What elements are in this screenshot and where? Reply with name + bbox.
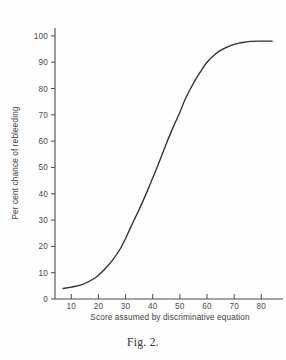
y-tick-label-70: 70	[38, 111, 48, 120]
y-axis-ticks: 0102030405060708090100	[34, 32, 55, 304]
y-tick-label-0: 0	[43, 295, 48, 304]
y-tick-label-30: 30	[38, 216, 48, 225]
y-tick-label-50: 50	[38, 163, 48, 172]
figure-container: 0102030405060708090100 1020304050607080 …	[0, 0, 286, 360]
x-tick-label-70: 70	[229, 302, 239, 311]
y-tick-label-10: 10	[38, 269, 48, 278]
y-tick-label-100: 100	[34, 32, 49, 41]
y-tick-label-20: 20	[38, 242, 48, 251]
rebleeding-probability-chart: 0102030405060708090100 1020304050607080 …	[0, 0, 286, 336]
y-tick-label-90: 90	[38, 58, 48, 67]
y-tick-label-60: 60	[38, 137, 48, 146]
x-tick-label-30: 30	[121, 302, 131, 311]
sigmoid-curve	[63, 41, 272, 288]
x-tick-label-20: 20	[94, 302, 104, 311]
x-tick-label-60: 60	[202, 302, 212, 311]
figure-caption: Fig. 2.	[0, 336, 286, 348]
x-tick-label-50: 50	[175, 302, 185, 311]
y-tick-label-40: 40	[38, 190, 48, 199]
x-tick-label-40: 40	[148, 302, 158, 311]
y-axis-title: Per cent chance of rebleeding	[10, 106, 20, 219]
x-tick-label-80: 80	[257, 302, 267, 311]
x-axis-title: Score assumed by discriminative equation	[90, 312, 250, 322]
y-tick-label-80: 80	[38, 85, 48, 94]
x-tick-label-10: 10	[67, 302, 77, 311]
x-axis-ticks: 1020304050607080	[67, 294, 267, 311]
